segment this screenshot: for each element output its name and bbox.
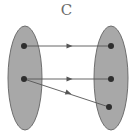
element-dot-b2: [108, 76, 114, 82]
arrowhead-icon: [65, 90, 72, 95]
element-dot-a2: [21, 76, 27, 82]
element-dot-b3: [106, 104, 112, 110]
arrowhead-icon: [67, 43, 73, 48]
element-dot-a1: [21, 43, 27, 49]
element-dot-b1: [108, 43, 114, 49]
mapping-diagram: [0, 0, 133, 140]
arrowhead-icon: [67, 76, 73, 81]
